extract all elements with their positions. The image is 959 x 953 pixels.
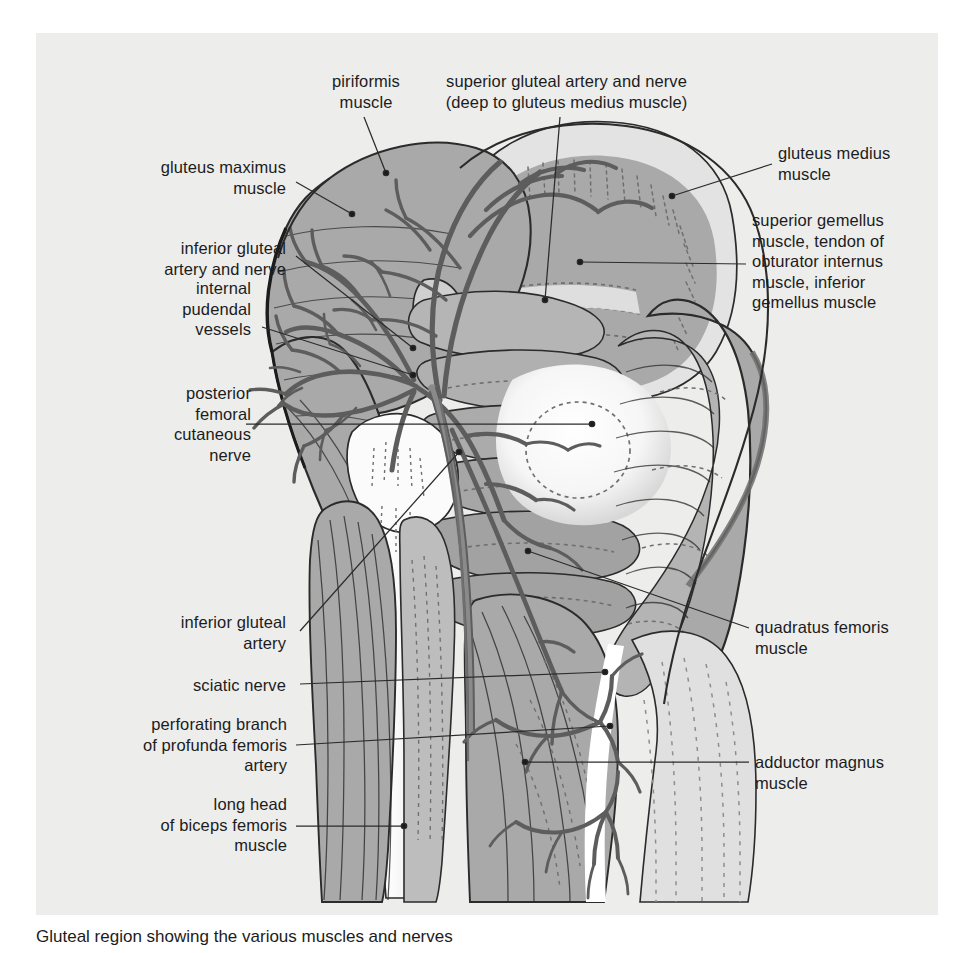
label-inferior-gluteal-artery-and-nerve: inferior gluteal artery and nerve: [86, 238, 286, 279]
label-superior-gluteal-artery-and-nerve: superior gluteal artery and nerve (deep …: [424, 71, 709, 112]
lateral-thigh-region: [632, 631, 756, 902]
label-posterior-femoral-cutaneous-nerve: posterior femoral cutaneous nerve: [86, 383, 251, 465]
figure-caption: Gluteal region showing the various muscl…: [36, 926, 916, 953]
label-adductor-magnus-muscle: adductor magnus muscle: [755, 752, 955, 793]
label-inferior-gluteal-artery: inferior gluteal artery: [86, 612, 286, 653]
label-perforating-branch-of-profunda-femoris-artery: perforating branch of profunda femoris a…: [72, 714, 287, 776]
label-gluteus-maximus-muscle: gluteus maximus muscle: [86, 157, 286, 198]
label-gluteus-medius-muscle: gluteus medius muscle: [778, 143, 958, 184]
label-sciatic-nerve: sciatic nerve: [86, 675, 286, 696]
label-piriformis-muscle: piriformis muscle: [296, 71, 436, 112]
label-superior-gemellus-obturator-internus-inferior-gemellus: superior gemellus muscle, tendon of obtu…: [752, 210, 952, 313]
label-long-head-of-biceps-femoris-muscle: long head of biceps femoris muscle: [72, 794, 287, 856]
label-quadratus-femoris-muscle: quadratus femoris muscle: [755, 617, 955, 658]
anatomy-figure: piriformis muscle superior gluteal arter…: [0, 0, 959, 953]
hamstring-muscle-group: [309, 501, 454, 902]
label-internal-pudendal-vessels: internal pudendal vessels: [86, 278, 251, 340]
